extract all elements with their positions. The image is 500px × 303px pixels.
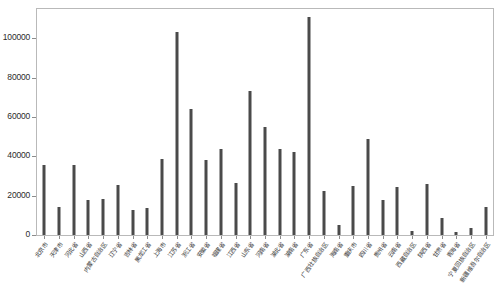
bar-slot <box>96 9 111 235</box>
bar[interactable] <box>366 139 369 235</box>
bar[interactable] <box>131 210 134 235</box>
bar-slot <box>243 9 258 235</box>
x-axis-tick-label: 江苏省 <box>167 241 183 260</box>
bar[interactable] <box>293 152 296 235</box>
bar[interactable] <box>396 187 399 235</box>
x-axis-tick-label: 重庆市 <box>343 241 359 260</box>
x-axis-tick-label: 海南省 <box>328 241 344 260</box>
x-axis-tick-mark <box>74 236 75 239</box>
bar[interactable] <box>116 185 119 235</box>
bar[interactable] <box>87 200 90 235</box>
bar[interactable] <box>72 165 75 235</box>
bar[interactable] <box>175 32 178 235</box>
bar[interactable] <box>308 17 311 235</box>
x-axis-tick-mark <box>339 236 340 239</box>
bar-slot <box>66 9 81 235</box>
x-axis-tick-mark <box>294 236 295 239</box>
x-axis-tick: 天津市 <box>52 236 67 303</box>
x-axis-tick-mark <box>427 236 428 239</box>
bar[interactable] <box>161 159 164 235</box>
bar[interactable] <box>484 207 487 235</box>
bar[interactable] <box>381 200 384 235</box>
bar[interactable] <box>234 183 237 235</box>
x-axis-tick: 西藏自治区 <box>405 236 420 303</box>
x-axis-tick-mark <box>324 236 325 239</box>
x-axis-tick: 江苏省 <box>169 236 184 303</box>
x-axis-tick-mark <box>397 236 398 239</box>
bar[interactable] <box>102 199 105 235</box>
x-axis-tick-mark <box>177 236 178 239</box>
bar[interactable] <box>278 149 281 235</box>
x-axis-tick-label: 湖北省 <box>270 241 286 260</box>
y-axis-tick-label: 60000 <box>7 111 30 122</box>
bar-slot <box>316 9 331 235</box>
bar[interactable] <box>455 232 458 235</box>
bar[interactable] <box>219 149 222 235</box>
x-axis-tick: 浙江省 <box>184 236 199 303</box>
x-axis-tick-mark <box>383 236 384 239</box>
x-axis-tick: 安徽省 <box>199 236 214 303</box>
bar[interactable] <box>43 165 46 235</box>
x-axis-tick-mark <box>250 236 251 239</box>
x-axis-tick-label: 北京市 <box>34 241 50 260</box>
x-axis-tick-mark <box>103 236 104 239</box>
bar[interactable] <box>263 127 266 235</box>
x-axis-tick-label: 陕西省 <box>417 241 433 260</box>
bar[interactable] <box>205 160 208 235</box>
bar[interactable] <box>440 218 443 235</box>
bar-slot <box>214 9 229 235</box>
x-axis-tick: 甘肃省 <box>434 236 449 303</box>
bar[interactable] <box>249 91 252 235</box>
bar[interactable] <box>322 191 325 235</box>
x-axis-tick-mark <box>309 236 310 239</box>
bar[interactable] <box>411 231 414 235</box>
y-axis-tick-label: 0 <box>25 229 30 240</box>
bars-container <box>37 9 493 235</box>
x-axis-tick-label: 江西省 <box>225 241 241 260</box>
x-axis-tick-mark <box>353 236 354 239</box>
x-axis-tick: 内蒙古自治区 <box>96 236 111 303</box>
bar[interactable] <box>337 225 340 235</box>
x-axis-tick-label: 湖南省 <box>284 241 300 260</box>
x-axis-tick-mark <box>118 236 119 239</box>
y-axis-tick-label: 40000 <box>7 150 30 161</box>
x-axis-tick-label: 福建省 <box>211 241 227 260</box>
bar-slot <box>199 9 214 235</box>
x-axis-tick: 江西省 <box>228 236 243 303</box>
bar-slot <box>111 9 126 235</box>
bar-slot <box>37 9 52 235</box>
bar-slot <box>390 9 405 235</box>
x-axis-tick-label: 河南省 <box>255 241 271 260</box>
bar-slot <box>302 9 317 235</box>
bar-slot <box>449 9 464 235</box>
x-axis-tick-label: 四川省 <box>358 241 374 260</box>
x-axis-tick-label: 安徽省 <box>196 241 212 260</box>
x-axis-tick-mark <box>236 236 237 239</box>
y-axis-tick-mark <box>32 156 36 157</box>
x-axis-tick-mark <box>265 236 266 239</box>
y-axis-tick-mark <box>32 38 36 39</box>
y-axis-tick-label: 80000 <box>7 72 30 83</box>
bar-slot <box>464 9 479 235</box>
bar[interactable] <box>352 186 355 235</box>
y-axis-tick-label: 100000 <box>3 32 30 43</box>
bar[interactable] <box>469 228 472 235</box>
x-axis: 北京市天津市河北省山西省内蒙古自治区辽宁省吉林省黑龙江省上海市江苏省浙江省安徽省… <box>37 236 493 303</box>
y-axis-tick-label: 20000 <box>7 190 30 201</box>
bar[interactable] <box>58 207 61 235</box>
x-axis-tick: 湖北省 <box>272 236 287 303</box>
bar[interactable] <box>190 109 193 235</box>
x-axis-tick: 贵州省 <box>375 236 390 303</box>
bar-slot <box>272 9 287 235</box>
x-axis-tick: 四川省 <box>361 236 376 303</box>
bar[interactable] <box>146 208 149 235</box>
bar-slot <box>81 9 96 235</box>
bar[interactable] <box>425 184 428 235</box>
x-axis-tick: 河南省 <box>258 236 273 303</box>
x-axis-tick: 海南省 <box>331 236 346 303</box>
x-axis-tick-label: 上海市 <box>152 241 168 260</box>
x-axis-tick-mark <box>221 236 222 239</box>
bar-slot <box>140 9 155 235</box>
bar-slot <box>419 9 434 235</box>
bar-slot <box>331 9 346 235</box>
